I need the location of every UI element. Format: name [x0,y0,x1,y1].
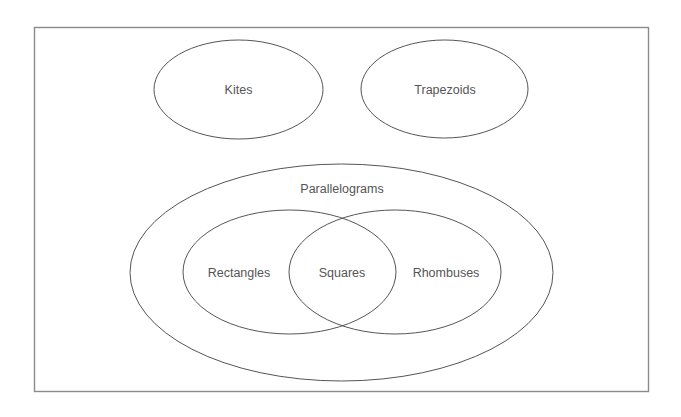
kites-label: Kites [225,83,253,97]
parallelograms-label: Parallelograms [300,182,383,196]
squares-intersection-label: Squares [319,266,366,280]
set-kites: Kites [154,40,323,139]
set-trapezoids: Trapezoids [361,40,528,138]
trapezoids-label: Trapezoids [414,83,475,97]
rhombuses-label: Rhombuses [413,266,480,280]
rectangles-label: Rectangles [208,266,271,280]
quadrilateral-venn-diagram: Kites Trapezoids Parallelograms Rectangl… [0,0,681,417]
universe-frame [35,28,649,392]
